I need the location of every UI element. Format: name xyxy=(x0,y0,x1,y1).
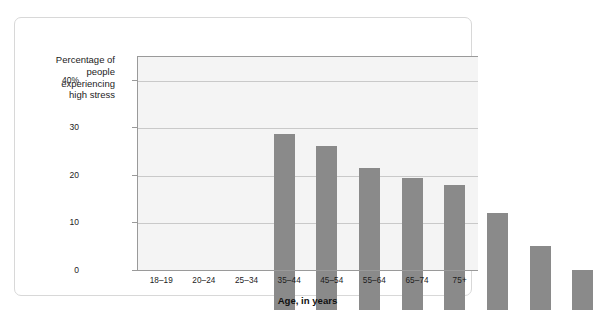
y-tick-label: 0 xyxy=(49,265,79,275)
y-tick-mark xyxy=(132,175,137,176)
plot-area xyxy=(137,56,478,271)
bar xyxy=(487,213,508,310)
y-tick-mark xyxy=(132,270,137,271)
y-tick-label: 40% xyxy=(49,75,79,85)
bar xyxy=(444,185,465,310)
y-tick-mark xyxy=(132,222,137,223)
y-tick-label: 10 xyxy=(49,217,79,227)
gridline xyxy=(138,81,478,82)
chart-card: Percentage of people experiencing high s… xyxy=(14,17,472,296)
bar xyxy=(359,168,380,310)
y-tick-label: 30 xyxy=(49,122,79,132)
y-tick-mark xyxy=(132,127,137,128)
y-tick-label: 20 xyxy=(49,170,79,180)
x-axis-line xyxy=(137,270,478,271)
bar xyxy=(316,146,337,310)
y-tick-mark xyxy=(132,80,137,81)
bar xyxy=(572,270,593,310)
bar xyxy=(530,246,551,310)
x-axis-title: Age, in years xyxy=(137,295,478,306)
x-tick-label: 75+ xyxy=(435,276,485,285)
bar xyxy=(402,178,423,310)
